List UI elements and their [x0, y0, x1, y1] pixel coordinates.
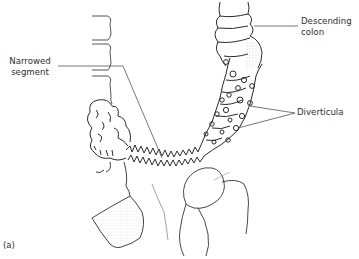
- descending-colon-label: Descending colon: [301, 16, 352, 37]
- panel-label: (a): [3, 240, 15, 251]
- descending-colon-label-line2: colon: [301, 27, 352, 38]
- colon-diagram: Narrowed segment Descending colon Divert…: [0, 0, 359, 259]
- narrowed-segment-leader: [58, 66, 162, 158]
- narrowed-segment-drawing: [126, 145, 204, 166]
- narrowed-segment-label: Narrowed segment: [4, 56, 56, 77]
- diverticula-label: Diverticula: [297, 107, 344, 118]
- diverticula-leader-upper: [250, 106, 295, 113]
- narrowed-segment-label-line1: Narrowed: [4, 56, 56, 67]
- sigmoid-colon-with-diverticula: [201, 58, 262, 156]
- descending-colon-label-line1: Descending: [301, 16, 352, 27]
- descending-colon-drawing: [215, 2, 262, 70]
- diverticula-leader-lower: [238, 113, 295, 128]
- leader-lines: [58, 26, 298, 158]
- rectum-sacrum: [92, 162, 168, 248]
- anatomy-illustration: [0, 0, 359, 259]
- narrowed-segment-label-line2: segment: [4, 67, 56, 78]
- pelvic-bones: [180, 168, 249, 256]
- spine-vertebrae: [92, 16, 112, 104]
- cecum-ascending-colon: [87, 100, 130, 160]
